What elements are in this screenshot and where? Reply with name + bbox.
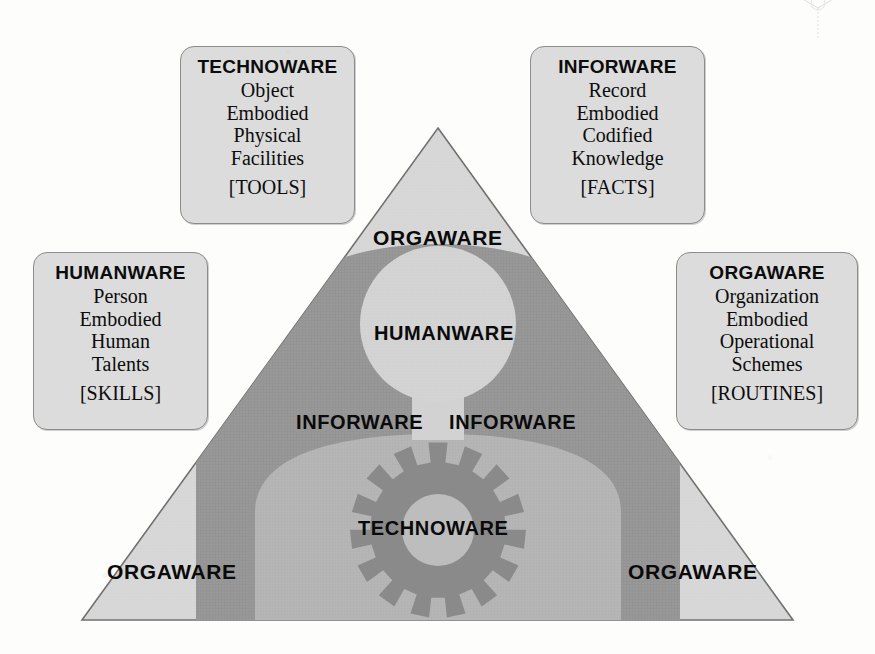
info-box-orgaware-line-1: Organization [683, 285, 851, 307]
label-orgaware-top: ORGAWARE [373, 226, 503, 250]
info-box-humanware-line-4: Talents [40, 353, 201, 375]
info-box-orgaware-line-2: Embodied [683, 308, 851, 330]
info-box-humanware-title: HUMANWARE [40, 262, 201, 284]
info-box-orgaware-line-3: Operational [683, 330, 851, 352]
label-technoware-center: TECHNOWARE [358, 517, 508, 540]
scan-artifact-icon [793, 0, 843, 40]
info-box-technoware-line-3: Physical [187, 124, 348, 146]
info-box-technoware-line-4: Facilities [187, 147, 348, 169]
label-humanware-center: HUMANWARE [374, 322, 514, 345]
label-inforware-left: INFORWARE [296, 411, 423, 434]
info-box-inforware: INFORWARE Record Embodied Codified Knowl… [530, 46, 705, 224]
info-box-technoware-title: TECHNOWARE [187, 56, 348, 78]
info-box-humanware-line-1: Person [40, 285, 201, 307]
info-box-orgaware: ORGAWARE Organization Embodied Operation… [676, 252, 858, 430]
info-box-technoware-line-1: Object [187, 79, 348, 101]
info-box-technoware-tag: [TOOLS] [187, 176, 348, 198]
info-box-humanware-tag: [SKILLS] [40, 382, 201, 404]
info-box-humanware: HUMANWARE Person Embodied Human Talents … [33, 252, 208, 430]
label-inforware-right: INFORWARE [449, 411, 576, 434]
info-box-technoware-line-2: Embodied [187, 102, 348, 124]
diagram-canvas: ORGAWARE HUMANWARE INFORWARE INFORWARE T… [0, 0, 875, 654]
info-box-inforware-line-1: Record [537, 79, 698, 101]
info-box-inforware-tag: [FACTS] [537, 176, 698, 198]
info-box-orgaware-line-4: Schemes [683, 353, 851, 375]
label-orgaware-bottom-left: ORGAWARE [107, 560, 237, 584]
label-orgaware-bottom-right: ORGAWARE [628, 560, 758, 584]
info-box-humanware-line-3: Human [40, 330, 201, 352]
info-box-inforware-line-2: Embodied [537, 102, 698, 124]
info-box-technoware: TECHNOWARE Object Embodied Physical Faci… [180, 46, 355, 224]
info-box-inforware-line-4: Knowledge [537, 147, 698, 169]
info-box-inforware-title: INFORWARE [537, 56, 698, 78]
info-box-orgaware-title: ORGAWARE [683, 262, 851, 284]
info-box-humanware-line-2: Embodied [40, 308, 201, 330]
info-box-inforware-line-3: Codified [537, 124, 698, 146]
info-box-orgaware-tag: [ROUTINES] [683, 382, 851, 404]
